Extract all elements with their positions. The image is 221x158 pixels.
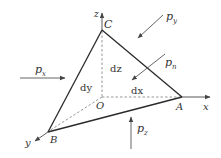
load-label-pn-base: p [165, 56, 172, 69]
load-label-px-base: p [35, 63, 42, 76]
load-label-py-base: p [166, 10, 173, 23]
load-arrow-py [138, 15, 163, 38]
y-axis [35, 132, 48, 141]
axis-label-z: z [93, 9, 99, 19]
load-label-px-sub: x [42, 70, 46, 78]
edge-BA [48, 97, 182, 132]
load-label-px: p x [35, 63, 46, 78]
edge-CB [48, 30, 102, 132]
load-label-py: p y [166, 10, 178, 25]
axis-label-y: y [24, 137, 31, 148]
load-label-pz-base: p [137, 122, 144, 135]
load-label-pz-sub: z [143, 129, 148, 137]
point-label-O: O [96, 100, 104, 111]
load-arrow-pn [132, 54, 165, 80]
label-dx: dx [131, 85, 143, 96]
axis-label-x: x [203, 101, 209, 112]
point-label-C: C [104, 18, 113, 31]
load-label-pn: p n [165, 56, 177, 71]
load-label-py-sub: y [172, 17, 178, 25]
point-label-A: A [175, 101, 183, 112]
load-label-pz: p z [137, 122, 148, 137]
label-dz: dz [110, 63, 122, 74]
load-label-pn-sub: n [172, 63, 177, 71]
tetrahedron-diagram: C O A B z x y dz dy dx p x p y p n p z [0, 0, 221, 158]
label-dy: dy [80, 82, 92, 93]
point-label-B: B [49, 134, 57, 145]
